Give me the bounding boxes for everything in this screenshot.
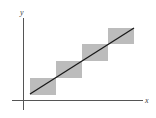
- y-axis-label: y: [19, 8, 24, 17]
- trend-line: [30, 28, 134, 94]
- step-diagram: y x: [0, 0, 156, 118]
- x-axis-label: x: [144, 96, 149, 105]
